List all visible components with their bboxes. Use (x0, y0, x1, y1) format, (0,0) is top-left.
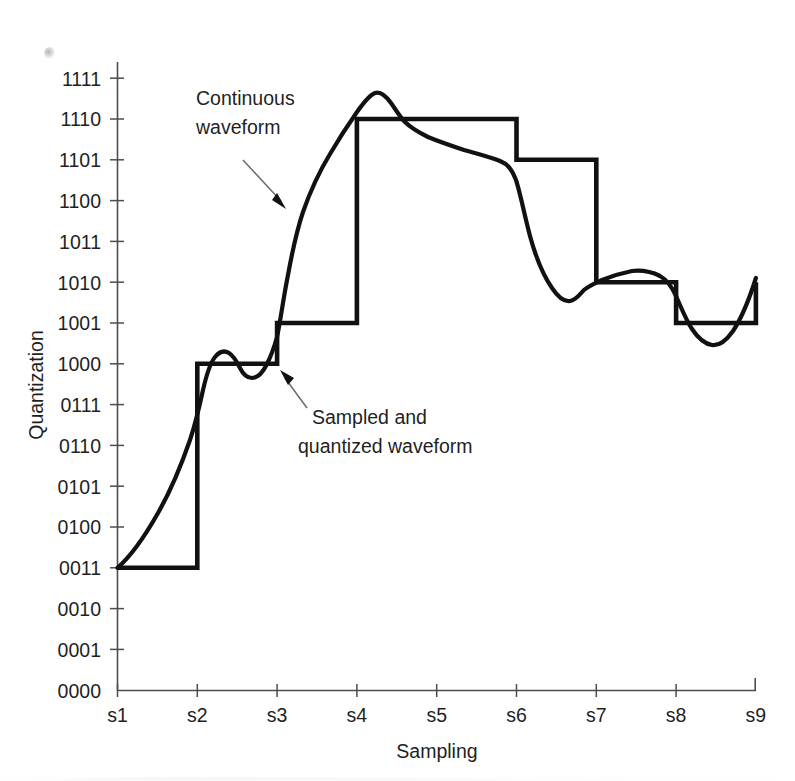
y-tick-label-0100: 0100 (58, 516, 102, 538)
annotation-continuous-waveform: Continuous waveform (195, 87, 295, 209)
annotation-sampled-line2: quantized waveform (298, 435, 473, 457)
y-tick-label-0101: 0101 (58, 476, 101, 498)
annotation-sampled-arrowhead (280, 370, 294, 385)
y-tick-label-0111: 0111 (61, 394, 102, 416)
y-tick-label-0001: 0001 (58, 639, 101, 661)
x-tick-label-s5: s5 (426, 704, 447, 726)
y-tick-label-0110: 0110 (59, 435, 101, 457)
x-axis-title: Sampling (396, 740, 477, 762)
axis-group (118, 62, 757, 691)
y-tick-label-0000: 0000 (58, 680, 102, 702)
y-axis-title: Quantization (25, 330, 47, 440)
y-tick-label-1010: 1010 (58, 272, 102, 294)
x-tick-label-s6: s6 (506, 704, 527, 726)
chart-canvas: 1111 1110 1101 1100 1011 1010 1001 1000 … (0, 0, 795, 781)
annotation-continuous-leader-line (243, 160, 281, 201)
annotation-sampled-line1: Sampled and (312, 406, 427, 428)
y-tick-label-1101: 1101 (59, 149, 101, 171)
annotation-continuous-line1: Continuous (196, 87, 295, 109)
x-tick-label-s9: s9 (746, 704, 767, 726)
y-tick-label-1011: 1011 (59, 231, 101, 253)
y-tick-label-1110: 1110 (61, 108, 102, 130)
y-tick-label-0011: 0011 (59, 557, 101, 579)
annotation-continuous-line2: waveform (195, 116, 281, 138)
series-continuous-waveform (118, 93, 756, 568)
y-tick-label-1100: 1100 (59, 190, 101, 212)
annotation-continuous-arrowhead (272, 193, 286, 209)
y-tick-labels: 1111 1110 1101 1100 1011 1010 1001 1000 … (58, 68, 102, 702)
annotation-sampled-quantized-waveform: Sampled and quantized waveform (280, 370, 473, 457)
x-tick-label-s3: s3 (267, 704, 288, 726)
x-tick-label-s7: s7 (586, 704, 607, 726)
x-tick-label-s2: s2 (187, 704, 208, 726)
y-tick-label-0010: 0010 (58, 598, 102, 620)
quantization-sampling-figure: 1111 1110 1101 1100 1011 1010 1001 1000 … (0, 0, 795, 781)
y-tick-label-1111: 1111 (62, 68, 101, 90)
y-tick-label-1001: 1001 (58, 312, 101, 334)
x-tick-labels: s1 s2 s3 s4 s5 s6 s7 s8 s9 (107, 704, 766, 726)
series-sampled-quantized-waveform (118, 119, 756, 568)
x-tick-label-s1: s1 (107, 704, 128, 726)
x-tick-label-s8: s8 (666, 704, 687, 726)
y-tick-label-1000: 1000 (58, 353, 102, 375)
x-tick-label-s4: s4 (347, 704, 368, 726)
